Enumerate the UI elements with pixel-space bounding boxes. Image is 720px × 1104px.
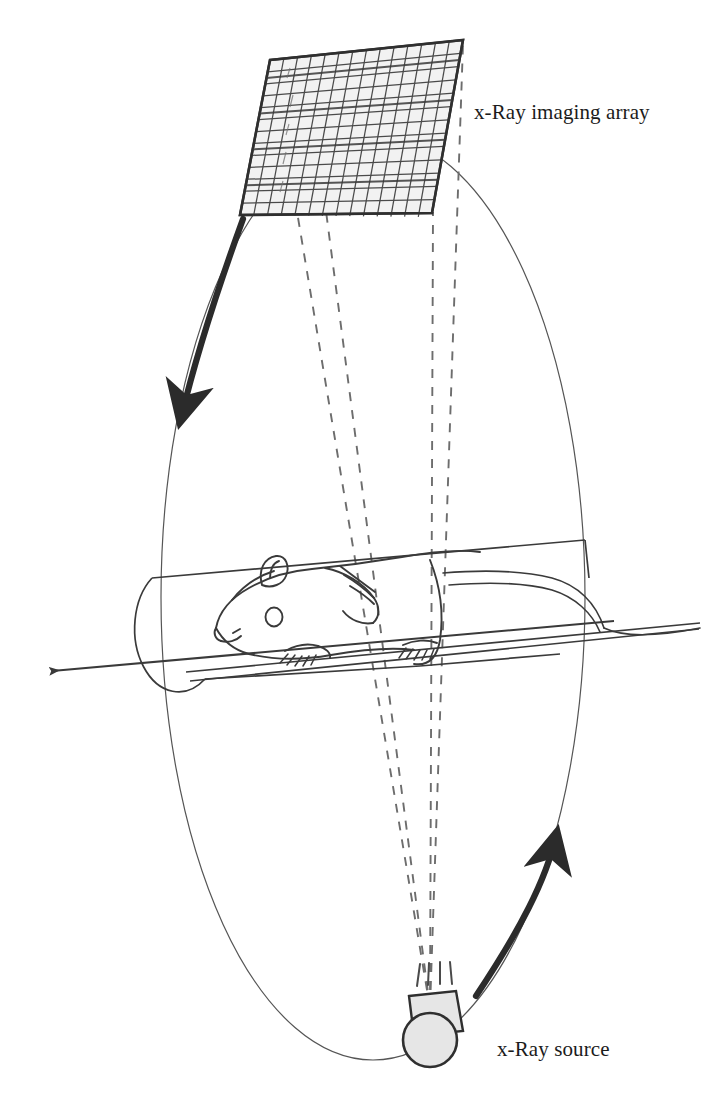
figure-root: x-Ray imaging array x-Ray source bbox=[0, 0, 720, 1104]
detector-label: x-Ray imaging array bbox=[474, 100, 650, 125]
detector-rotation-arrow bbox=[181, 219, 243, 418]
x-ray-imaging-array[interactable] bbox=[240, 40, 463, 217]
source-rotation-arrow bbox=[476, 836, 556, 996]
mouse-subject bbox=[215, 551, 700, 666]
x-ray-source[interactable] bbox=[403, 962, 463, 1067]
xray-system-diagram bbox=[0, 0, 720, 1104]
source-label: x-Ray source bbox=[497, 1037, 610, 1062]
